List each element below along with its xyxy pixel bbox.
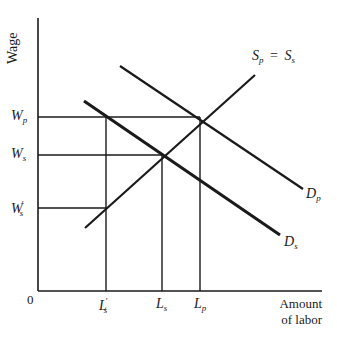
wage-label-main: W: [11, 108, 23, 123]
demand-s-label-sub: s: [294, 241, 298, 251]
x-axis-label-line1: Amount: [274, 296, 322, 312]
origin-label: 0: [27, 292, 34, 308]
demand-p-label: Dp: [306, 186, 321, 203]
labor-label-ls: Ls: [156, 296, 167, 313]
x-axis-label: Amount of labor: [274, 296, 322, 328]
x-axis-label-line2: of labor: [274, 312, 322, 328]
wage-label-ws-prime: W′s: [11, 199, 23, 218]
supply-label-equals: =: [270, 48, 278, 63]
demand-s-label: Ds: [284, 234, 298, 251]
wage-label-sub: p: [23, 115, 28, 125]
supply-label-sub1: p: [259, 55, 264, 65]
labor-label-sub: p: [202, 303, 207, 313]
demand-p-label-main: D: [306, 186, 316, 201]
labor-label-main: L: [156, 296, 164, 311]
labor-label-main: L: [194, 296, 202, 311]
wage-label-sub: s: [23, 153, 27, 163]
demand-s-label-main: D: [284, 234, 294, 249]
demand-curve-s: [84, 101, 280, 235]
wage-label-wp: Wp: [11, 108, 27, 125]
supply-curve-label: Sp = Ss: [252, 48, 295, 65]
labor-label-lp: Lp: [194, 296, 206, 313]
labor-label-sub: s: [164, 303, 168, 313]
wage-label-sub: s: [20, 208, 24, 218]
supply-curve: [85, 75, 255, 228]
wage-label-main: W: [11, 146, 23, 161]
supply-label-s1: S: [252, 48, 259, 63]
y-axis-label: Wage: [5, 32, 21, 64]
supply-label-sub2: s: [291, 55, 295, 65]
labor-label-sub: s: [104, 305, 108, 315]
demand-p-label-sub: p: [316, 193, 321, 203]
labor-label-ls-prime: L′s: [99, 296, 107, 315]
wage-label-ws: Ws: [11, 146, 26, 163]
